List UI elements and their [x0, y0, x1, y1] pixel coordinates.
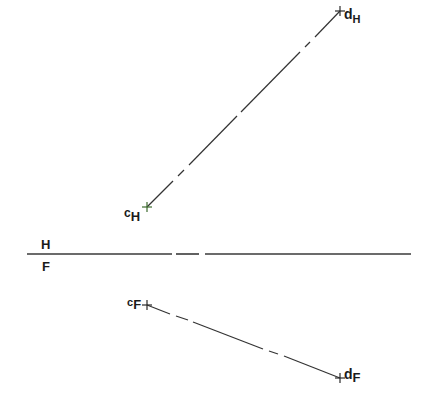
point-marker-c-f-icon: [142, 300, 152, 310]
plane-label-h: H: [41, 237, 50, 252]
line-segment: [147, 181, 173, 207]
line-segment: [147, 305, 170, 314]
point-subscript: F: [353, 370, 361, 385]
point-label-c-f: cF: [127, 293, 141, 309]
point-subscript: H: [353, 13, 361, 25]
line-segment: [176, 316, 188, 320]
line-segment: [284, 356, 340, 378]
line-cd-frontal-view: [147, 305, 340, 378]
line-segment: [189, 116, 237, 165]
point-name: c: [124, 206, 131, 220]
line-segment: [315, 11, 340, 37]
point-label-d-f: dF: [344, 366, 361, 382]
point-subscript: F: [133, 297, 141, 312]
point-name: d: [344, 366, 353, 382]
line-segment: [305, 42, 310, 47]
projection-drawing: [0, 0, 425, 396]
point-markers: [142, 6, 345, 383]
plane-label-f: F: [42, 259, 50, 274]
line-cd-horizontal-view: [147, 11, 340, 207]
line-segment: [178, 170, 184, 176]
point-subscript: H: [131, 209, 140, 224]
point-label-d-h: dH: [344, 6, 361, 22]
point-label-c-h: cH: [124, 204, 140, 220]
line-segment: [269, 351, 278, 354]
point-name: d: [344, 6, 353, 22]
line-segment: [193, 322, 263, 349]
line-segment: [241, 52, 300, 112]
